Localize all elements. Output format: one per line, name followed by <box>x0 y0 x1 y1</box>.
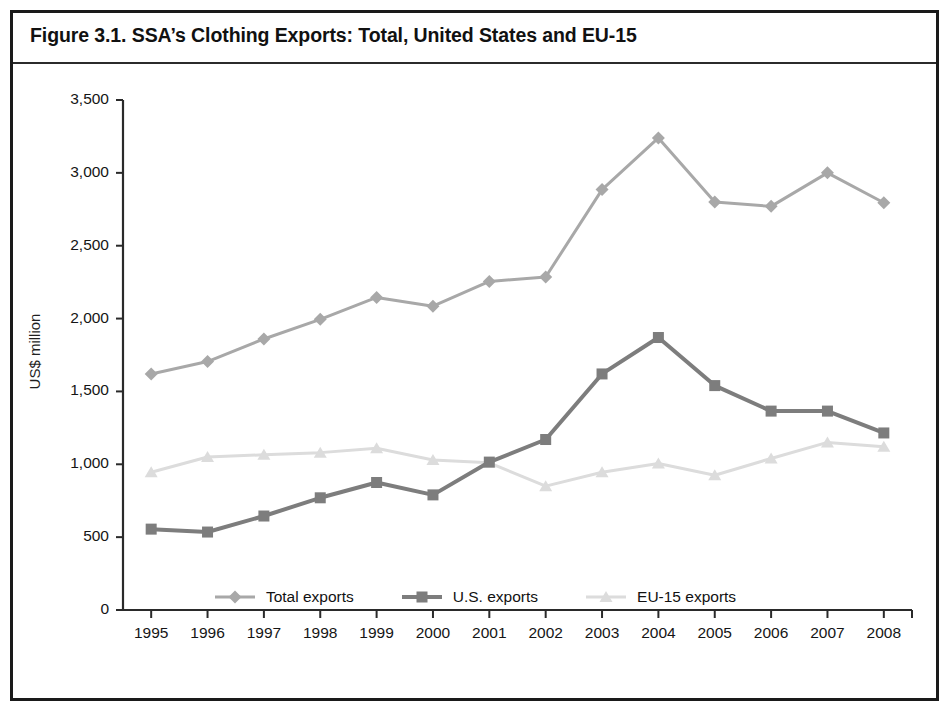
figure-title: Figure 3.1. SSA’s Clothing Exports: Tota… <box>30 24 637 47</box>
data-point-marker <box>228 591 241 604</box>
data-point-marker <box>145 367 158 380</box>
legend-label: U.S. exports <box>453 588 538 606</box>
data-point-marker <box>877 196 890 209</box>
series-eu-15-exports <box>145 436 891 491</box>
series-total-exports <box>145 131 891 380</box>
data-point-marker <box>314 313 327 326</box>
data-point-marker <box>315 492 326 503</box>
chart-legend: Total exportsU.S. exportsEU-15 exports <box>0 588 949 606</box>
data-point-marker <box>146 524 157 535</box>
data-point-marker <box>427 489 438 500</box>
data-point-marker <box>822 406 833 417</box>
data-point-marker <box>653 332 664 343</box>
legend-label: Total exports <box>266 588 354 606</box>
legend-marker-diamond-icon <box>213 588 257 606</box>
data-point-marker <box>483 275 496 288</box>
data-point-marker <box>201 355 214 368</box>
figure-page: Figure 3.1. SSA’s Clothing Exports: Tota… <box>0 0 949 711</box>
data-point-marker <box>371 477 382 488</box>
series-u-s-exports <box>146 332 890 538</box>
legend-label: EU-15 exports <box>637 588 736 606</box>
line-plot <box>0 64 949 704</box>
data-point-marker <box>709 380 720 391</box>
data-point-marker <box>202 527 213 538</box>
data-point-marker <box>597 368 608 379</box>
data-point-marker <box>416 592 427 603</box>
legend-item-eu-15-exports[interactable]: EU-15 exports <box>584 588 736 606</box>
page-border-top <box>10 10 939 13</box>
legend-marker-square-icon <box>400 588 444 606</box>
data-point-marker <box>766 406 777 417</box>
legend-item-u-s-exports[interactable]: U.S. exports <box>400 588 538 606</box>
data-point-marker <box>258 511 269 522</box>
chart-area: US$ million 05001,0001,5002,0002,5003,00… <box>0 64 949 704</box>
data-point-marker <box>878 427 889 438</box>
data-point-marker <box>765 200 778 213</box>
legend-item-total-exports[interactable]: Total exports <box>213 588 354 606</box>
data-point-marker <box>484 457 495 468</box>
data-point-marker <box>370 291 383 304</box>
data-point-marker <box>540 434 551 445</box>
legend-marker-triangle-icon <box>584 588 628 606</box>
data-point-marker <box>821 166 834 179</box>
data-point-marker <box>426 300 439 313</box>
data-point-marker <box>257 332 270 345</box>
